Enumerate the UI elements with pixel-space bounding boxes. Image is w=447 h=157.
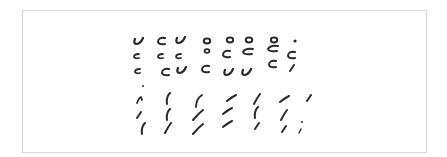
ink-mark-o-small-icon (202, 46, 212, 56)
ink-mark-slash-icon (163, 123, 173, 133)
ink-mark-slash-tiny-icon (295, 126, 305, 136)
ink-mark-slash-short-icon (279, 124, 289, 134)
ink-mark-c-wide-icon (268, 44, 278, 54)
ink-mark-dash-up-icon (280, 94, 290, 104)
ink-mark-slash-short-icon (304, 93, 314, 103)
ink-mark-hook-icon (134, 36, 144, 46)
ink-mark-c-wide-icon (243, 47, 253, 57)
ink-marks-canvas (0, 0, 447, 157)
ink-mark-c-icon (161, 67, 171, 77)
ink-mark-slash-short-icon (252, 121, 262, 131)
ink-mark-c-icon (222, 49, 232, 59)
ink-mark-caret-icon (135, 95, 145, 105)
ink-mark-slash-long-icon (193, 124, 203, 134)
ink-mark-c-small-icon (132, 51, 142, 61)
ink-mark-hook-icon (224, 67, 234, 77)
ink-mark-hook-icon (176, 35, 186, 45)
ink-mark-dash-up-icon (223, 119, 233, 129)
ink-mark-hook-icon (242, 67, 252, 77)
ink-mark-c-icon (201, 64, 211, 74)
ink-mark-c-small-icon (133, 66, 143, 76)
ink-mark-c-icon (268, 59, 278, 69)
ink-mark-hook-icon (177, 65, 187, 75)
ink-mark-c-icon (157, 36, 167, 46)
ink-mark-slash-short-icon (287, 63, 297, 73)
ink-mark-c-small-icon (156, 51, 166, 61)
ink-mark-paren-icon (138, 124, 148, 134)
ink-mark-paren-icon (163, 94, 173, 104)
